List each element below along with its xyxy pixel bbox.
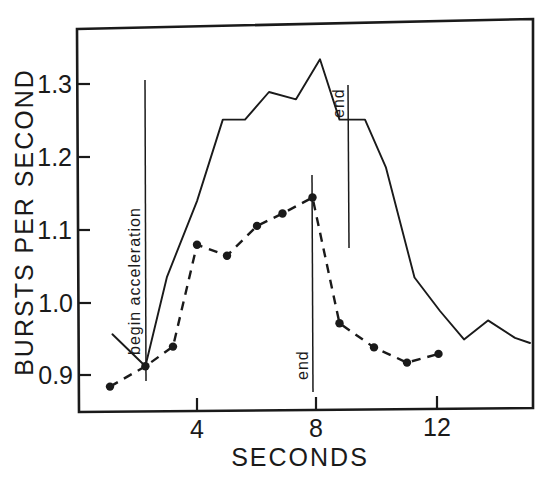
data-point-marker — [370, 343, 378, 351]
y-axis-title: BURSTS PER SECOND — [10, 68, 38, 376]
y-tick-label-1.3: 1.3 — [37, 70, 72, 98]
annotation-end-upper: end — [330, 85, 349, 248]
data-point-marker — [308, 193, 316, 201]
x-tick-label-8: 8 — [309, 414, 323, 442]
y-axis-tick-labels: 1.3 1.2 1.1 1.0 0.9 — [37, 70, 73, 389]
data-point-marker — [403, 358, 411, 366]
data-series-layer — [106, 59, 530, 391]
begin-acceleration-label: begin acceleration — [126, 207, 143, 355]
y-tick-label-0.9: 0.9 — [38, 361, 73, 389]
end-lower-label: end — [294, 350, 311, 380]
data-point-marker — [223, 252, 231, 260]
annotation-begin-acceleration: begin acceleration — [126, 80, 146, 381]
data-point-marker — [434, 350, 442, 358]
x-axis-title: SECONDS — [231, 443, 369, 471]
y-tick-label-1.2: 1.2 — [37, 143, 72, 171]
x-tick-label-12: 12 — [423, 413, 451, 441]
end-upper-marker-line — [348, 85, 349, 248]
data-point-marker — [193, 241, 201, 249]
data-point-marker — [253, 222, 261, 230]
data-point-marker — [141, 362, 149, 370]
x-axis-tick-labels: 4 8 12 — [190, 413, 451, 443]
series-line-dashed-line-series — [110, 198, 439, 387]
y-tick-label-1.0: 1.0 — [38, 289, 73, 317]
figure-container: 1.3 1.2 1.1 1.0 0.9 4 8 12 BURSTS PER SE… — [0, 0, 555, 479]
data-point-marker — [278, 209, 286, 217]
begin-acceleration-marker-line — [145, 80, 146, 381]
y-tick-label-1.1: 1.1 — [37, 216, 72, 244]
annotation-end-lower: end — [294, 175, 313, 392]
data-point-marker — [106, 382, 114, 390]
bursts-per-second-line-chart: 1.3 1.2 1.1 1.0 0.9 4 8 12 BURSTS PER SE… — [0, 0, 555, 479]
end-lower-marker-line — [312, 175, 313, 392]
x-tick-label-4: 4 — [190, 415, 204, 443]
data-point-marker — [335, 319, 343, 327]
data-point-marker — [169, 342, 177, 350]
series-line-solid-line-series — [112, 59, 530, 366]
